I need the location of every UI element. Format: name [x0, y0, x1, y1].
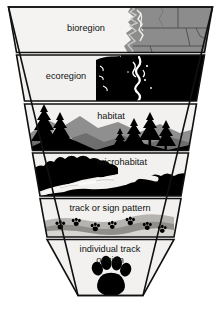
funnel-hierarchy-diagram: bioregion ecoregion [0, 0, 221, 314]
band-label-habitat: habitat [97, 111, 125, 121]
band-bioregion[interactable]: bioregion [0, 5, 218, 55]
band-ecoregion[interactable]: ecoregion [17, 53, 217, 103]
band-track-or-sign-pattern[interactable]: track or sign pattern [40, 199, 181, 238]
band-label-individual-track-line1: individual track [80, 244, 141, 254]
band-label-individual-track-line2: or sign [96, 255, 124, 265]
band-microhabitat[interactable]: microhabitat [32, 153, 189, 200]
bioregion-map-image [0, 5, 218, 55]
band-label-track-or-sign-pattern: track or sign pattern [69, 203, 150, 213]
band-label-ecoregion: ecoregion [46, 71, 86, 81]
band-habitat[interactable]: habitat [24, 104, 198, 152]
band-label-bioregion: bioregion [67, 23, 105, 33]
band-label-microhabitat: microhabitat [97, 157, 147, 167]
